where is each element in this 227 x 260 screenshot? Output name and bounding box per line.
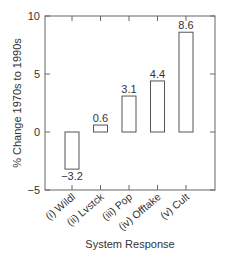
y-tick-label: 5 [34, 68, 40, 80]
bar-value-label: 3.1 [121, 83, 136, 95]
bar-value-label: 0.6 [93, 112, 108, 124]
bar-value-label: 8.6 [178, 19, 193, 31]
x-category-label: (v) Cult [158, 190, 192, 221]
y-tick-label: 0 [34, 126, 40, 138]
bar [94, 125, 108, 132]
bar-chart: −50510−3.2(i) Wildl0.6(ii) Lvstck3.1(iii… [0, 0, 227, 260]
plot-area: −50510−3.2(i) Wildl0.6(ii) Lvstck3.1(iii… [27, 10, 215, 232]
y-tick-label: 10 [28, 10, 40, 22]
bar-value-label: −3.2 [61, 170, 83, 182]
bar [179, 32, 193, 132]
bar [151, 81, 165, 132]
bar-value-label: 4.4 [150, 68, 165, 80]
bar [65, 132, 79, 169]
y-axis-title: % Change 1970s to 1990s [11, 38, 23, 168]
y-tick-label: −5 [27, 184, 40, 196]
bar [122, 96, 136, 132]
x-axis-title: System Response [85, 238, 174, 250]
